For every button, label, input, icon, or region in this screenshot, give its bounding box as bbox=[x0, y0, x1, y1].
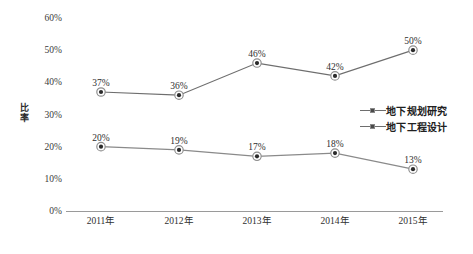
data-point-label: 20% bbox=[92, 133, 109, 143]
line-chart: 比率 60%50%40%30%20%10%0% 37%36%46%42%50%2… bbox=[0, 0, 473, 254]
y-axis-tick-label: 60% bbox=[20, 13, 62, 23]
x-axis-tick-label: 2013年 bbox=[243, 216, 272, 227]
data-point-label: 50% bbox=[404, 36, 421, 46]
x-axis-tick-label: 2012年 bbox=[165, 216, 194, 227]
data-point-label: 42% bbox=[326, 62, 343, 72]
x-axis-line bbox=[66, 211, 443, 212]
legend-item-0[interactable]: 地下规划研究 bbox=[360, 102, 472, 118]
data-point-label: 17% bbox=[248, 142, 265, 152]
x-axis-tick-label: 2011年 bbox=[87, 216, 116, 227]
legend-item-1[interactable]: 地下工程设计 bbox=[360, 118, 472, 134]
x-axis-tick-label: 2015年 bbox=[399, 216, 428, 227]
data-point-label: 13% bbox=[404, 155, 421, 165]
y-axis-tick-label: 50% bbox=[20, 45, 62, 55]
chart-legend: 地下规划研究 地下工程设计 bbox=[360, 102, 472, 134]
y-axis-tick-label: 30% bbox=[20, 110, 62, 120]
y-axis-tick-labels: 60%50%40%30%20%10%0% bbox=[20, 0, 62, 254]
data-point-label: 19% bbox=[170, 136, 187, 146]
y-axis-tick-label: 40% bbox=[20, 77, 62, 87]
data-point-label: 36% bbox=[170, 81, 187, 91]
y-axis-tick-label: 20% bbox=[20, 142, 62, 152]
y-axis-tick-label: 10% bbox=[20, 174, 62, 184]
data-point-label: 46% bbox=[248, 49, 265, 59]
legend-item-label: 地下工程设计 bbox=[386, 119, 448, 134]
y-axis-tick-label: 0% bbox=[20, 206, 62, 216]
data-point-label: 37% bbox=[92, 78, 109, 88]
legend-marker-icon bbox=[360, 121, 386, 131]
legend-marker-icon bbox=[360, 105, 386, 115]
x-axis-tick-label: 2014年 bbox=[321, 216, 350, 227]
data-point-label: 18% bbox=[326, 139, 343, 149]
legend-item-label: 地下规划研究 bbox=[386, 103, 448, 118]
